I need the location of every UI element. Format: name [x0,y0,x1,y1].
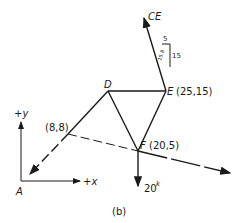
force-line-f-extended [138,151,230,173]
dashed-line-to-f [68,134,138,151]
slope-hyp: 15.8 [156,49,165,61]
point-a-label: A [15,186,23,197]
force-line-da-dashed [30,134,68,174]
point-d-label: D [104,79,112,90]
point-p-coords: (8,8) [45,122,69,133]
truss-free-body-diagram: +y +x A CE 5 15 15.8 20 k D E (25,15) F … [0,0,241,223]
load-unit: k [156,180,161,188]
y-axis-label: +y [14,108,29,119]
figure-caption: (b) [112,206,126,217]
point-e-coords: (25,15) [176,86,213,97]
slope-triangle: 5 15 15.8 [156,35,181,67]
member-df [108,91,138,151]
slope-run: 5 [163,35,167,43]
force-line-da [68,91,108,134]
point-f-coords: (20,5) [149,140,179,151]
load-value: 20 [144,183,157,194]
point-e-label: E [167,86,174,97]
x-axis-label: +x [83,176,97,187]
slope-rise: 15 [172,52,181,60]
force-ce-label: CE [148,11,162,22]
point-f-label: F [140,140,146,151]
